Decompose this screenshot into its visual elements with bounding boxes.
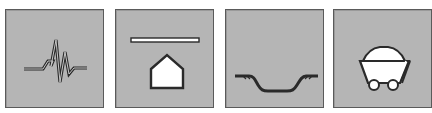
ground-depression-icon — [226, 10, 323, 107]
ground-collapse-tile[interactable] — [225, 9, 324, 108]
mining-tile[interactable] — [333, 9, 432, 108]
earthquake-tile[interactable] — [5, 9, 104, 108]
house-subsidence-icon — [116, 10, 213, 107]
subsidence-tile[interactable] — [115, 9, 214, 108]
seismic-waveform-icon — [6, 10, 103, 107]
mine-cart-icon — [334, 10, 431, 107]
